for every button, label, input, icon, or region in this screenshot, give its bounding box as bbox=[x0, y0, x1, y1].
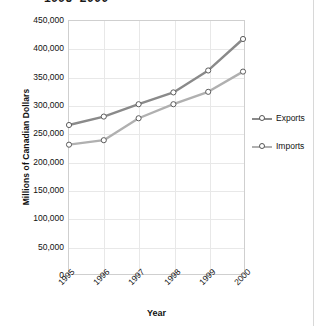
data-point-marker bbox=[240, 36, 245, 41]
data-point-marker bbox=[171, 90, 176, 95]
legend-marker-icon bbox=[252, 114, 272, 123]
plot-area bbox=[68, 20, 245, 275]
chart-title: 1995–2000 bbox=[44, 0, 109, 2]
data-point-marker bbox=[136, 102, 141, 107]
y-axis-tick-label: 50,000 bbox=[0, 242, 68, 252]
data-point-marker bbox=[240, 69, 245, 74]
legend-marker-icon bbox=[252, 142, 272, 151]
data-point-marker bbox=[171, 102, 176, 107]
y-axis-tick-label: 250,000 bbox=[0, 128, 68, 138]
legend-label: Exports bbox=[276, 113, 305, 123]
chart-legend: ExportsImports bbox=[252, 112, 305, 168]
series-line-imports bbox=[69, 72, 243, 145]
data-point-marker bbox=[66, 122, 71, 127]
y-axis-tick-label: 400,000 bbox=[0, 43, 68, 53]
y-axis-tick-label: 100,000 bbox=[0, 213, 68, 223]
y-axis-tick-label: 350,000 bbox=[0, 72, 68, 82]
x-axis-title: Year bbox=[68, 308, 245, 318]
series-lines bbox=[69, 21, 244, 274]
data-point-marker bbox=[101, 138, 106, 143]
y-axis-tick-label: 450,000 bbox=[0, 15, 68, 25]
data-point-marker bbox=[101, 114, 106, 119]
y-axis-tick-label: 200,000 bbox=[0, 157, 68, 167]
chart-page: 1995–2000 Millions of Canadian Dollars 4… bbox=[0, 0, 314, 326]
legend-label: Imports bbox=[276, 141, 304, 151]
legend-item-exports[interactable]: Exports bbox=[252, 112, 305, 124]
data-point-marker bbox=[206, 68, 211, 73]
data-point-marker bbox=[206, 89, 211, 94]
y-axis-tick-label: 150,000 bbox=[0, 185, 68, 195]
data-point-marker bbox=[136, 116, 141, 121]
y-axis-tick-label: 300,000 bbox=[0, 100, 68, 110]
data-point-marker bbox=[66, 142, 71, 147]
y-axis-title: Millions of Canadian Dollars bbox=[21, 57, 31, 237]
legend-item-imports[interactable]: Imports bbox=[252, 140, 305, 152]
